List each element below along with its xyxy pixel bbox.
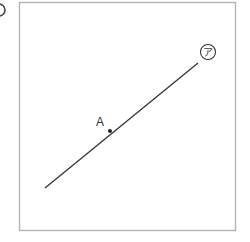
- point-a: [108, 129, 112, 133]
- point-a-label: A: [96, 115, 104, 129]
- diagram-frame: [20, 3, 236, 231]
- line-label: ア: [203, 47, 213, 58]
- geometry-figure: A ア: [0, 0, 250, 242]
- question-number-marker: [0, 4, 5, 16]
